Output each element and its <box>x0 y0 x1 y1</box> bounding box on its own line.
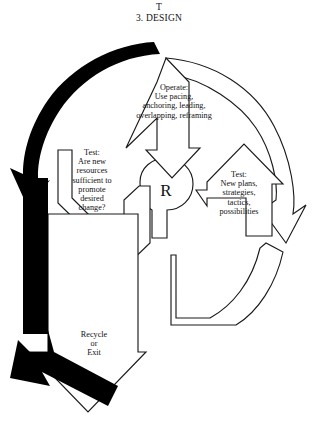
diagram-canvas: T 3. DESIGN Operate: Use pacing, anchori… <box>0 0 318 426</box>
test-left-label: Test: Are new resources sufficient to pr… <box>52 148 132 212</box>
return-arc-lower-shape <box>171 243 283 325</box>
test-right-label: Test: New plans, strategies, tactics, po… <box>198 170 280 216</box>
operate-label: Operate: Use pacing, anchoring, leading,… <box>118 83 230 120</box>
stage-letter: T <box>0 2 318 13</box>
recycle-exit-label: Recycle or Exit <box>58 330 130 358</box>
page-title: 3. DESIGN <box>0 13 318 24</box>
feedback-shaft-shape <box>23 178 48 334</box>
hub-label: R <box>148 182 184 199</box>
